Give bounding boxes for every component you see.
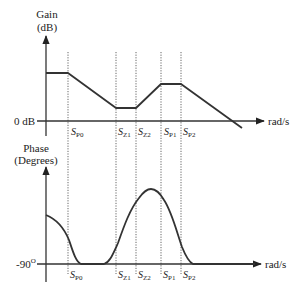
- marker-sp1: SP1: [163, 269, 176, 282]
- phase-y-label-line2: (Degrees): [14, 154, 58, 167]
- marker-sz1: SZ1: [118, 269, 131, 282]
- phase-plot: Phase (Degrees) -90O rad/s SP0 SZ1 SZ2 S…: [14, 142, 286, 282]
- gain-y-label-line1: Gain: [36, 8, 58, 20]
- marker-sp1: SP1: [164, 126, 177, 139]
- marker-sp2: SP2: [183, 269, 196, 282]
- gain-plot: Gain (dB) 0 dB rad/s SP0 SZ1 SZ2 SP1 SP2: [14, 8, 289, 139]
- marker-sp2: SP2: [183, 126, 196, 139]
- gain-y-label-line2: (dB): [37, 21, 58, 34]
- minus-90-label: -90O: [16, 257, 36, 270]
- marker-sz2: SZ2: [138, 126, 151, 139]
- marker-sz2: SZ2: [138, 269, 151, 282]
- marker-sz1: SZ1: [118, 126, 131, 139]
- zero-db-label: 0 dB: [14, 115, 35, 127]
- gain-x-unit: rad/s: [268, 115, 289, 127]
- bode-diagram: Gain (dB) 0 dB rad/s SP0 SZ1 SZ2 SP1 SP2…: [0, 0, 304, 294]
- phase-x-unit: rad/s: [265, 258, 286, 270]
- marker-sp0: SP0: [71, 126, 84, 139]
- phase-curve: [46, 189, 255, 264]
- marker-sp0: SP0: [70, 269, 83, 282]
- gain-markers: SP0 SZ1 SZ2 SP1 SP2: [71, 126, 196, 139]
- phase-y-label-line1: Phase: [23, 142, 49, 154]
- gain-curve: [46, 73, 242, 128]
- phase-markers: SP0 SZ1 SZ2 SP1 SP2: [70, 269, 196, 282]
